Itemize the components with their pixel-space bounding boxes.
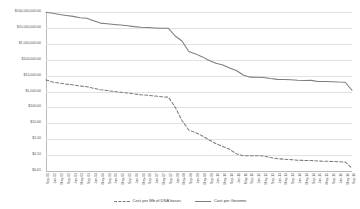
y-axis-tick-label: $10,000,000.00 (17, 26, 41, 30)
sequencing-cost-chart: $100,000,000.00$10,000,000.00$1,000,000.… (0, 0, 360, 209)
x-axis-tick-label: May-10 (224, 173, 228, 184)
x-axis-tick-label: Jan-16 (340, 173, 344, 183)
x-axis-tick-label: Jan-11 (238, 173, 242, 183)
y-axis-tick-label: $10,000.00 (24, 74, 42, 78)
y-axis-tick-label: $1,000,000.00 (19, 42, 41, 46)
legend-swatch-dashed-icon (114, 201, 130, 202)
y-axis-tick-label: $0.10 (32, 153, 41, 157)
x-axis-tick-label: May-08 (183, 173, 187, 184)
legend-label: Cost per Mb of DNA bases (133, 199, 181, 203)
x-axis: Sep-01Jan-02May-02Sep-02Jan-03May-03Sep-… (46, 173, 352, 195)
legend-item[interactable]: Cost per Genome (195, 199, 246, 203)
x-axis-tick-label: May-11 (245, 173, 249, 184)
x-axis-tick-label: Sep-12 (272, 173, 276, 184)
y-axis-tick-label: $1.00 (32, 137, 41, 141)
x-axis-tick-label: Jan-06 (136, 173, 140, 183)
series-container (46, 12, 352, 171)
series-line (46, 80, 352, 168)
x-axis-tick-label: May-13 (285, 173, 289, 184)
x-axis-tick-label: Sep-07 (170, 173, 174, 184)
chart-legend: Cost per Mb of DNA basesCost per Genome (0, 196, 360, 206)
x-axis-tick-label: May-12 (265, 173, 269, 184)
x-axis-tick-label: Jan-14 (299, 173, 303, 183)
x-axis-tick-label: Jan-04 (95, 173, 99, 183)
y-axis-tick-label: $1,000.00 (25, 90, 41, 94)
x-axis-tick-label: May-02 (61, 173, 65, 184)
x-axis-tick-label: Sep-01 (47, 173, 51, 184)
y-axis-tick-label: $100,000.00 (22, 58, 41, 62)
x-axis-tick-label: Jan-02 (54, 173, 58, 183)
x-axis-tick-label: Sep-04 (109, 173, 113, 184)
legend-item[interactable]: Cost per Mb of DNA bases (114, 199, 181, 203)
x-axis-tick-label: Sep-02 (68, 173, 72, 184)
x-axis-tick-label: May-09 (204, 173, 208, 184)
x-axis-tick-label: Sep-10 (231, 173, 235, 184)
series-line (46, 12, 352, 90)
y-axis-tick-label: $100.00 (28, 106, 41, 110)
x-axis-tick-label: May-05 (122, 173, 126, 184)
x-axis-tick-label: Sep-08 (190, 173, 194, 184)
x-axis-tick-label: Jan-15 (319, 173, 323, 183)
x-axis-tick-label: Sep-03 (88, 173, 92, 184)
x-axis-tick-label: Sep-15 (333, 173, 337, 184)
x-axis-tick-label: Sep-16 (353, 173, 357, 184)
gridline (46, 171, 352, 172)
legend-label: Cost per Genome (214, 199, 246, 203)
x-axis-tick-label: Jan-12 (258, 173, 262, 183)
y-axis-tick-label: $10.00 (30, 122, 41, 126)
x-axis-tick-label: Jan-13 (279, 173, 283, 183)
x-axis-tick-label: Sep-11 (251, 173, 255, 184)
x-axis-tick-label: Sep-06 (149, 173, 153, 184)
x-axis-tick-label: Jan-05 (115, 173, 119, 183)
x-axis-tick-label: Jan-10 (217, 173, 221, 183)
x-axis-tick-label: May-14 (306, 173, 310, 184)
x-axis-tick-label: May-04 (102, 173, 106, 184)
x-axis-tick-label: Jan-09 (197, 173, 201, 183)
x-axis-tick-label: Jan-08 (177, 173, 181, 183)
y-axis: $100,000,000.00$10,000,000.00$1,000,000.… (0, 12, 44, 171)
x-axis-tick-label: Sep-05 (129, 173, 133, 184)
legend-swatch-solid-icon (195, 201, 211, 202)
x-axis-tick-label: Sep-09 (211, 173, 215, 184)
x-axis-tick-label: Sep-14 (313, 173, 317, 184)
y-axis-tick-label: $0.01 (32, 169, 41, 173)
x-axis-tick-label: Jan-03 (75, 173, 79, 183)
plot-area (46, 12, 352, 171)
x-axis-tick-label: May-15 (326, 173, 330, 184)
x-axis-tick-label: May-03 (81, 173, 85, 184)
x-axis-tick-label: Sep-13 (292, 173, 296, 184)
x-axis-tick-label: May-07 (163, 173, 167, 184)
x-axis-tick-label: Jan-07 (156, 173, 160, 183)
y-axis-tick-label: $100,000,000.00 (15, 10, 41, 14)
x-axis-tick-label: May-16 (347, 173, 351, 184)
x-axis-tick-label: May-06 (143, 173, 147, 184)
